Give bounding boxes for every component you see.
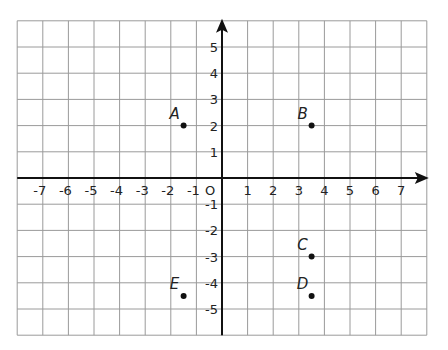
- x-tick-label: -3: [136, 183, 149, 198]
- origin-label: O: [205, 183, 215, 198]
- y-tick-label: 2: [210, 119, 218, 134]
- plotted-points: ABCDE: [168, 105, 314, 299]
- x-tick-label: 2: [269, 183, 277, 198]
- point-label-b: B: [297, 105, 307, 123]
- x-tick-label: -6: [59, 183, 72, 198]
- point-label-d: D: [297, 275, 309, 293]
- y-tick-label: 5: [210, 40, 218, 55]
- point-e: [181, 293, 187, 299]
- x-tick-label: -7: [33, 183, 46, 198]
- x-tick-label: 5: [346, 183, 354, 198]
- x-tick-label: -4: [110, 183, 123, 198]
- y-tick-label: -5: [205, 302, 218, 317]
- x-tick-label: 1: [243, 183, 251, 198]
- y-tick-label: -4: [205, 276, 218, 291]
- point-c: [309, 254, 315, 260]
- point-label-c: C: [297, 236, 308, 254]
- point-b: [309, 123, 315, 129]
- y-tick-label: -1: [205, 197, 218, 212]
- axes: [17, 19, 429, 335]
- point-d: [309, 293, 315, 299]
- y-tick-label: 4: [210, 66, 218, 81]
- x-tick-label: 4: [320, 183, 328, 198]
- coordinate-plane: -7-6-5-4-3-2-1123456754321-1-2-3-4-5O AB…: [0, 0, 448, 350]
- x-tick-label: -5: [85, 183, 98, 198]
- y-tick-label: 1: [210, 145, 218, 160]
- x-tick-label: 7: [397, 183, 405, 198]
- y-tick-label: -2: [205, 223, 218, 238]
- point-label-a: A: [168, 105, 179, 123]
- y-tick-label: 3: [210, 92, 218, 107]
- x-tick-label: 3: [295, 183, 303, 198]
- point-label-e: E: [170, 275, 180, 293]
- point-a: [181, 123, 187, 129]
- x-tick-label: -2: [161, 183, 174, 198]
- y-tick-label: -3: [205, 250, 218, 265]
- x-tick-label: -1: [187, 183, 200, 198]
- x-tick-label: 6: [371, 183, 379, 198]
